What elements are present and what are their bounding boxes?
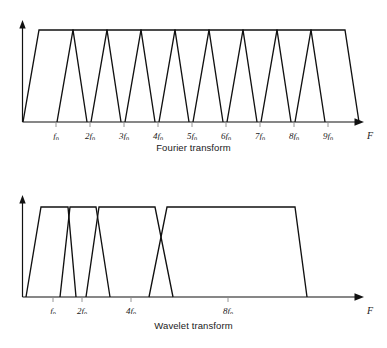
tick-label-sub: 0: [330, 135, 333, 140]
filter-bank-comparison-figure: f0 2f0 3f0 4f0 5f0 6f0 7f0 8f0 9f0 F Fou…: [0, 0, 387, 348]
band-wavelet-octave-4: [149, 207, 307, 297]
tick-label-sub: 0: [92, 135, 95, 140]
panel-fourier-transform: f0 2f0 3f0 4f0 5f0 6f0 7f0 8f0 9f0 F Fou…: [0, 0, 387, 174]
svg-text:f0: f0: [50, 306, 56, 314]
band-fourier-8: [261, 30, 325, 122]
wavelet-bands: [26, 207, 307, 297]
wavelet-x-axis: [23, 293, 365, 301]
band-wavelet-octave-2: [60, 207, 110, 297]
tick-label-sub: 0: [84, 310, 87, 314]
caption-fourier-transform: Fourier transform: [0, 142, 387, 153]
tick-label-sub: 0: [56, 135, 59, 140]
svg-text:4f0: 4f0: [126, 306, 136, 314]
fourier-tick-labels: f0 2f0 3f0 4f0 5f0 6f0 7f0 8f0 9f0: [53, 131, 333, 140]
tick-label-sub: 0: [53, 310, 56, 314]
band-fourier-5: [159, 30, 223, 122]
tick-label-sub: 0: [133, 310, 136, 314]
wavelet-tick-labels: f0 2f0 4f0 8f0: [50, 306, 233, 314]
svg-text:8f0: 8f0: [289, 131, 299, 140]
tick-label-sub: 0: [228, 135, 231, 140]
svg-text:7f0: 7f0: [255, 131, 265, 140]
svg-text:2f0: 2f0: [77, 306, 87, 314]
svg-text:9f0: 9f0: [323, 131, 333, 140]
tick-label-sub: 0: [262, 135, 265, 140]
panel-wavelet-transform: f0 2f0 4f0 8f0 F Wavelet transform: [0, 174, 387, 348]
fourier-plot: f0 2f0 3f0 4f0 5f0 6f0 7f0 8f0 9f0 F: [0, 0, 387, 140]
tick-label-sub: 0: [160, 135, 163, 140]
fourier-bands: [23, 30, 359, 122]
band-fourier-9: [295, 30, 359, 122]
wavelet-y-axis: [19, 195, 25, 297]
fourier-x-ticks: [56, 122, 328, 127]
tick-label-sub: 0: [230, 310, 233, 314]
wavelet-plot: f0 2f0 4f0 8f0 F: [0, 174, 387, 314]
band-fourier-2: [57, 30, 121, 122]
band-fourier-7: [227, 30, 291, 122]
fourier-x-axis-label: F: [366, 130, 374, 140]
band-fourier-4: [125, 30, 189, 122]
svg-text:8f0: 8f0: [223, 306, 233, 314]
wavelet-x-axis-label: F: [366, 305, 374, 314]
band-fourier-1: [23, 30, 87, 122]
wavelet-x-ticks: [53, 297, 228, 302]
tick-label-sub: 0: [126, 135, 129, 140]
svg-text:3f0: 3f0: [118, 131, 129, 140]
tick-label-sub: 0: [296, 135, 299, 140]
tick-label-sub: 0: [194, 135, 197, 140]
band-wavelet-octave-3: [86, 207, 173, 297]
band-fourier-6: [193, 30, 257, 122]
svg-text:6f0: 6f0: [221, 131, 231, 140]
caption-wavelet-transform: Wavelet transform: [0, 320, 387, 331]
svg-text:f0: f0: [53, 131, 59, 140]
svg-text:4f0: 4f0: [153, 131, 163, 140]
fourier-y-axis: [19, 20, 25, 122]
band-fourier-3: [91, 30, 155, 122]
svg-text:2f0: 2f0: [85, 131, 95, 140]
svg-text:5f0: 5f0: [187, 131, 197, 140]
